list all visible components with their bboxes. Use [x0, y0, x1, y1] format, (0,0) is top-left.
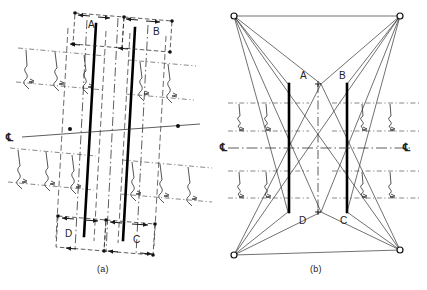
panel-b-caption: (b) [310, 264, 322, 274]
panel-a-caption: (a) [97, 264, 109, 274]
panel-a-track-breaks-lower-left [17, 150, 81, 194]
panel-a-label-A: A [88, 19, 95, 30]
panel-a-label-B: B [153, 26, 160, 37]
panel-a-rail-envelope-dashed [56, 28, 166, 246]
panel-a-main-centreline [22, 124, 200, 137]
panel-a-drawing [0, 0, 214, 290]
panel-b-sight-lines [234, 16, 400, 255]
panel-b-label-B: B [339, 70, 346, 81]
panel-a-label-D: D [65, 228, 72, 239]
panel-b-track-breaks-lower-left [238, 172, 271, 198]
panel-b-track-breaks-upper-left [238, 104, 271, 131]
panel-b-label-D: D [299, 215, 306, 226]
panel-a-centreline-symbol: ℄ [6, 131, 13, 144]
panel-b-track-breaks-upper-right [361, 104, 395, 131]
figure-canvas: A B D C ℄ (a) [0, 0, 427, 290]
panel-a-track-breaks-upper-left [24, 50, 93, 94]
panel-b-label-A: A [300, 70, 307, 81]
panel-a-track-breaks-lower-right [131, 162, 197, 206]
panel-b-label-C: C [340, 215, 347, 226]
panel-a-dimension-box-D [56, 216, 106, 251]
panel-b-track-breaks-lower-right [361, 172, 395, 198]
panel-b-centreline-symbol-left: ℄ [220, 141, 227, 154]
panel-b-drawing [214, 0, 427, 290]
panel-a-label-C: C [133, 234, 140, 245]
panel-a-break-guides-upper-right [126, 60, 196, 100]
panel-b-centreline-symbol-right: ℄ [403, 141, 410, 154]
